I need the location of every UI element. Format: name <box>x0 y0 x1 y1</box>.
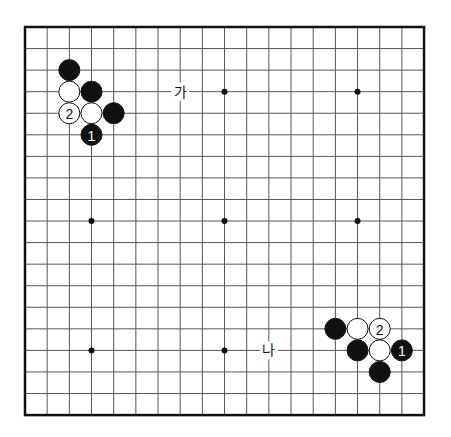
move-number: 2 <box>376 322 384 338</box>
move-number: 1 <box>88 128 96 144</box>
white-stone <box>81 103 102 124</box>
star-point <box>89 347 95 353</box>
black-stone <box>59 60 80 81</box>
white-stone <box>347 318 368 339</box>
white-stone: 2 <box>59 103 80 124</box>
black-stone <box>325 318 346 339</box>
star-point <box>222 89 228 95</box>
go-board: 가나 2121 <box>0 0 451 437</box>
black-stone <box>369 361 390 382</box>
star-point <box>355 89 361 95</box>
black-stone: 1 <box>81 124 102 145</box>
move-number: 1 <box>398 343 406 359</box>
black-stone <box>81 81 102 102</box>
white-stone <box>59 81 80 102</box>
move-number: 2 <box>65 106 73 122</box>
star-point <box>89 218 95 224</box>
position-marker-label: 가 <box>174 84 187 100</box>
white-stone: 2 <box>369 318 390 339</box>
star-point <box>222 347 228 353</box>
black-stone <box>347 340 368 361</box>
star-point <box>355 218 361 224</box>
black-stone <box>103 103 124 124</box>
star-point <box>222 218 228 224</box>
white-stone <box>369 340 390 361</box>
position-marker-label: 나 <box>262 342 275 358</box>
black-stone: 1 <box>391 340 412 361</box>
